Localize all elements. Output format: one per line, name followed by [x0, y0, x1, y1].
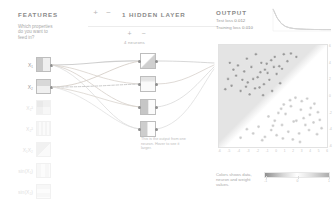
hidden-neuron-1[interactable] — [140, 53, 156, 69]
y-tick: 6 — [329, 44, 331, 48]
x-tick: -2 — [256, 149, 259, 153]
x-tick: 4 — [309, 149, 311, 153]
y-tick: -4 — [329, 127, 332, 131]
x-tick: -4 — [237, 149, 240, 153]
output-heading: OUTPUT — [216, 9, 247, 16]
y-axis-ticks: 6420-2-4-6 — [329, 44, 332, 148]
x-tick: -3 — [247, 149, 250, 153]
training-loss: Training loss 0.010 — [216, 25, 253, 30]
y-tick: 4 — [329, 61, 331, 65]
x-tick: 3 — [301, 149, 303, 153]
test-loss-value: 0.012 — [234, 18, 245, 23]
x-tick: 6 — [326, 149, 328, 153]
legend-tick: -1 — [264, 179, 267, 183]
hidden-neuron-3[interactable] — [140, 99, 156, 115]
x-tick: 5 — [318, 149, 320, 153]
legend-tick: 0 — [297, 179, 299, 183]
loss-curve-chart — [272, 8, 332, 32]
test-loss: Test loss 0.012 — [216, 18, 245, 23]
x-tick: -6 — [218, 149, 221, 153]
legend-description: Colors shows data, neuron and weight val… — [216, 172, 256, 187]
neuron-hover-note: This is the output from one neuron. Hove… — [141, 137, 189, 151]
hidden-neuron-2[interactable] — [140, 76, 156, 92]
playground-root: FEATURES Which properties do you want to… — [0, 0, 335, 203]
x-axis-ticks: -6-5-4-3-2-10123456 — [218, 149, 328, 153]
y-tick: -6 — [329, 144, 332, 148]
x-tick: -1 — [266, 149, 269, 153]
x-tick: -5 — [228, 149, 231, 153]
output-heatmap[interactable] — [218, 44, 328, 148]
test-loss-label: Test loss — [216, 18, 233, 23]
hidden-neuron-4[interactable] — [140, 121, 156, 137]
color-scale-ticks: -101 — [264, 179, 330, 183]
x-tick: 2 — [292, 149, 294, 153]
y-tick: 2 — [329, 77, 331, 81]
training-loss-label: Training loss — [216, 25, 241, 30]
training-loss-value: 0.010 — [242, 25, 253, 30]
network-links — [0, 0, 218, 203]
y-tick: -2 — [329, 111, 332, 115]
x-tick: 1 — [284, 149, 286, 153]
scatter-points — [219, 45, 327, 147]
x-tick: 0 — [275, 149, 277, 153]
legend-tick: 1 — [328, 179, 330, 183]
y-tick: 0 — [329, 94, 331, 98]
